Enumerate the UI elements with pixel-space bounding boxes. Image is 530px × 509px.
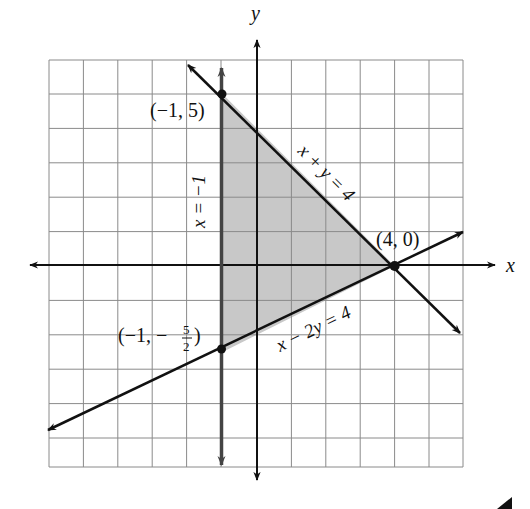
label-x-eq-neg1: x = −1 <box>188 175 209 229</box>
svg-text:(−1, −: (−1, − <box>118 324 167 347</box>
feasible-region <box>223 94 395 352</box>
y-axis-label: y <box>249 2 260 25</box>
vertex-4-0 <box>390 261 400 271</box>
x-axis-label: x <box>505 254 515 276</box>
vertex-label-neg1-5: (−1, 5) <box>150 99 205 122</box>
svg-text:): ) <box>194 324 201 347</box>
vertex-label-neg1-neg5over2: (−1, − 5 2 ) <box>118 322 201 354</box>
svg-text:5: 5 <box>183 322 190 337</box>
page-corner-mark <box>497 497 512 509</box>
vertex-label-4-0: (4, 0) <box>376 228 419 251</box>
vertex-neg1-5 <box>218 90 227 99</box>
svg-text:2: 2 <box>183 339 190 354</box>
vertex-neg1-neg5over2 <box>217 345 226 354</box>
graph-canvas: x y (−1, 5) (4, 0) (−1, − 5 2 ) x + y = … <box>0 0 530 509</box>
